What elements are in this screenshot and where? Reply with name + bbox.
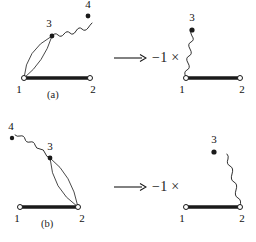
caption-a: (a) [47, 89, 59, 100]
vertex-3-label: 3 [47, 140, 53, 152]
edge-wavy-3-4 [15, 135, 50, 158]
vertex-1-label: 1 [16, 83, 22, 95]
vertex-4-label: 4 [8, 121, 14, 132]
vertex-1-label: 1 [179, 83, 185, 95]
diagram-a-left: 1 2 3 4 (a) [0, 0, 110, 121]
figure-root: 1 2 3 4 (a) −1 × [0, 0, 256, 242]
vertex-1-marker [18, 205, 23, 210]
diagram-b-right: 1 2 3 [170, 121, 256, 242]
rightwards-arrow-icon [113, 181, 147, 193]
vertex-2-marker [238, 76, 243, 81]
vertex-4-marker [86, 14, 91, 19]
diagram-b-left: 1 2 3 4 (b) [0, 121, 110, 242]
edge-arc-left-3-2 [50, 158, 78, 207]
vertex-3-label: 3 [189, 11, 195, 23]
vertex-3-marker [50, 34, 55, 39]
diagram-b-right-canvas: 1 2 3 [170, 121, 256, 242]
vertex-4-marker [10, 136, 14, 140]
vertex-1-marker [22, 76, 27, 81]
diagram-b-left-canvas: 1 2 3 4 [0, 121, 110, 242]
vertex-2-label: 2 [90, 83, 96, 95]
caption-b: (b) [41, 218, 53, 229]
relation-row-a: 1 2 3 4 (a) −1 × [0, 0, 256, 121]
vertex-3-label: 3 [46, 17, 52, 29]
edge-wavy-1-3 [185, 30, 194, 77]
edge-arc-right-3-2 [50, 158, 78, 207]
vertex-1-label: 1 [179, 212, 185, 224]
vertex-2-marker [76, 205, 81, 210]
edge-wavy-2-3 [227, 154, 241, 206]
vertex-3-marker [211, 149, 216, 154]
vertex-2-label: 2 [79, 212, 85, 224]
edge-arc-right-1-3 [24, 36, 52, 78]
diagram-a-right: 1 2 3 [170, 0, 256, 121]
vertex-2-label: 2 [239, 212, 245, 224]
diagram-a-right-canvas: 1 2 3 [170, 0, 256, 121]
vertex-2-label: 2 [239, 83, 245, 95]
vertex-1-label: 1 [14, 212, 20, 224]
vertex-1-marker [184, 205, 189, 210]
vertex-1-marker [184, 76, 189, 81]
vertex-3-label: 3 [211, 133, 217, 145]
vertex-3-marker [189, 27, 194, 32]
rightwards-arrow-icon [113, 52, 147, 64]
vertex-2-marker [88, 76, 93, 81]
edge-arc-left-1-3 [24, 36, 52, 78]
diagram-a-left-canvas: 1 2 3 4 [0, 0, 110, 121]
relation-row-b: 1 2 3 4 (b) −1 × [0, 121, 256, 242]
vertex-2-marker [238, 205, 243, 210]
vertex-4-label: 4 [85, 0, 91, 10]
edge-wavy-3-4 [52, 23, 92, 36]
vertex-3-marker [48, 156, 53, 161]
